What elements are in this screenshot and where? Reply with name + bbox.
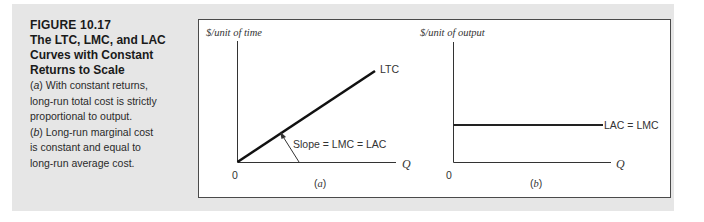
chart-b-ylabel: $/unit of output	[420, 27, 486, 38]
chart-a-ylabel: $/unit of time	[206, 27, 262, 38]
chart-b-sublabel: (b)	[530, 177, 542, 189]
slope-annotation: Slope = LMC = LAC	[293, 138, 387, 150]
chart-b-origin: 0	[446, 169, 452, 181]
chart-a-sublabel: (a)	[314, 177, 326, 189]
lac-lmc-label: LAC = LMC	[604, 119, 659, 131]
charts-svg: $/unit of time LTC Slope = LMC = LAC 0 Q…	[0, 0, 704, 222]
chart-a-xlabel: Q	[402, 157, 411, 171]
chart-a-origin: 0	[232, 169, 238, 181]
chart-a: $/unit of time LTC Slope = LMC = LAC 0 Q…	[206, 27, 411, 189]
chart-b: $/unit of output LAC = LMC 0 Q (b)	[420, 27, 659, 189]
chart-b-xlabel: Q	[616, 157, 625, 171]
ltc-label: LTC	[380, 63, 399, 75]
